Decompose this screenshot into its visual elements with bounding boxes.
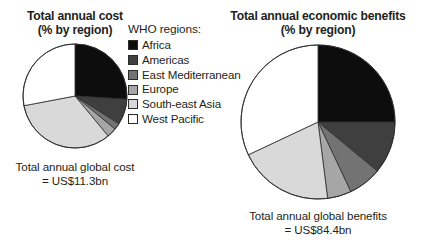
legend-swatch-icon (128, 55, 138, 65)
benefits-chart-caption: Total annual global benefits = US$84.4bn (212, 209, 424, 237)
benefits-chart-title-line1: Total annual economic benefits (230, 9, 405, 23)
legend-item-label: South-east Asia (142, 98, 221, 111)
legend-swatch-icon (128, 40, 138, 50)
benefits-chart-panel: Total annual economic benefits (% by reg… (212, 0, 424, 246)
legend-swatch-icon (128, 99, 138, 109)
benefits-chart-title-line2: (% by region) (212, 23, 424, 37)
benefits-caption-line2: = US$84.4bn (212, 223, 424, 237)
cost-pie-chart (19, 40, 131, 152)
legend-item-label: West Pacific (142, 113, 204, 126)
legend-swatch-icon (128, 70, 138, 80)
benefits-pie-chart (237, 41, 399, 203)
legend-item-label: Americas (142, 54, 189, 67)
benefits-pie-wrap (212, 41, 424, 203)
benefits-chart-title: Total annual economic benefits (% by reg… (212, 9, 424, 38)
legend-item-label: Europe (142, 83, 179, 96)
cost-chart-title-line1: Total annual cost (27, 9, 123, 23)
benefits-caption-line1: Total annual global benefits (249, 209, 387, 222)
legend-swatch-icon (128, 114, 138, 124)
cost-chart-caption: Total annual global cost = US$11.3bn (0, 160, 150, 188)
pie-slice (75, 44, 127, 99)
cost-caption-line1: Total annual global cost (16, 160, 135, 173)
cost-caption-line2: = US$11.3bn (0, 174, 150, 188)
pie-slice (23, 44, 75, 106)
pie-slice (318, 45, 395, 122)
legend-swatch-icon (128, 85, 138, 95)
legend-item-label: Africa (142, 39, 171, 52)
